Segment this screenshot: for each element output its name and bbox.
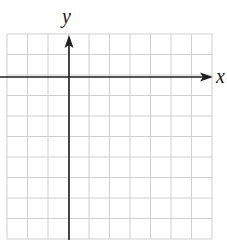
axes	[0, 35, 213, 240]
x-axis-label: x	[216, 66, 225, 86]
grid-lines	[7, 34, 212, 239]
y-axis-label: y	[62, 6, 71, 26]
coordinate-plane	[0, 0, 227, 240]
